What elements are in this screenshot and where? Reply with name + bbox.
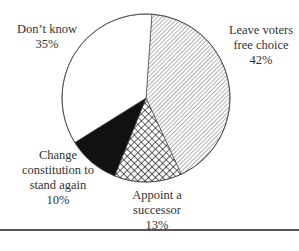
label-line: Change [12, 148, 104, 163]
label-percent: 42% [226, 53, 296, 68]
label-percent: 35% [12, 37, 82, 52]
label-line: Appoint a [122, 188, 192, 203]
label-percent: 10% [12, 193, 104, 208]
label-change-constitution: Change constitution to stand again 10% [12, 148, 104, 208]
label-line: stand again [12, 178, 104, 193]
label-line: successor [122, 203, 192, 218]
label-line: Don’t know [12, 22, 82, 37]
label-leave-voters: Leave voters free choice 42% [226, 23, 296, 68]
label-appoint-successor: Appoint a successor 13% [122, 188, 192, 233]
label-line: constitution to [12, 163, 104, 178]
label-line: free choice [226, 38, 296, 53]
label-line: Leave voters [226, 23, 296, 38]
bottom-divider [0, 229, 299, 231]
label-dont-know: Don’t know 35% [12, 22, 82, 52]
